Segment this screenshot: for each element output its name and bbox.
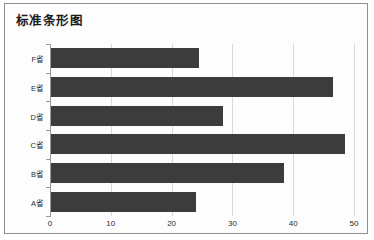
bar[interactable] — [50, 163, 284, 183]
y-axis-line — [50, 44, 51, 217]
y-axis-tick — [46, 44, 50, 45]
y-axis-tick — [46, 101, 50, 102]
gridline — [354, 44, 355, 216]
y-axis-tick — [46, 187, 50, 188]
x-tick-label: 0 — [48, 219, 52, 228]
x-tick-label: 50 — [350, 219, 359, 228]
category-label: D省 — [0, 111, 43, 122]
category-label: E省 — [0, 82, 43, 93]
y-axis-tick — [46, 159, 50, 160]
bar-series — [50, 44, 354, 216]
x-tick-label: 20 — [167, 219, 176, 228]
x-tick-label: 30 — [228, 219, 237, 228]
y-axis-tick — [46, 130, 50, 131]
category-label: C省 — [0, 139, 43, 150]
category-label: F省 — [0, 53, 43, 64]
category-label: B省 — [0, 168, 43, 179]
plot-wrap: F省E省D省C省B省A省 01020304050 — [5, 4, 367, 233]
bar[interactable] — [50, 48, 199, 68]
plot-area — [50, 44, 354, 216]
y-axis-tick — [46, 216, 50, 217]
bar[interactable] — [50, 192, 196, 212]
x-tick-label: 10 — [106, 219, 115, 228]
bar[interactable] — [50, 106, 223, 126]
category-label: A省 — [0, 197, 43, 208]
chart-card: 标准条形图 F省E省D省C省B省A省 01020304050 — [4, 3, 368, 234]
y-axis-tick — [46, 73, 50, 74]
bar[interactable] — [50, 77, 333, 97]
x-tick-label: 40 — [289, 219, 298, 228]
bar[interactable] — [50, 134, 345, 154]
